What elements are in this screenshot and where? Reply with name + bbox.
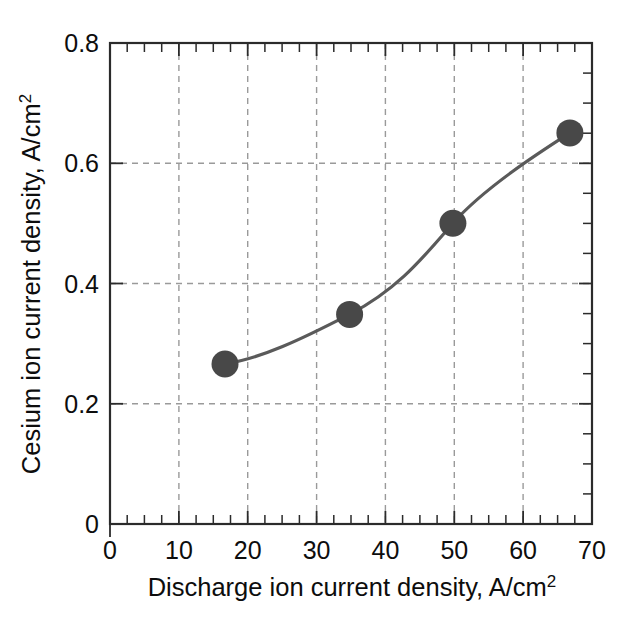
gridlines-vertical [179,43,523,524]
data-point-markers [212,119,584,377]
y-tick-label-0.6: 0.6 [64,149,99,177]
y-tick-label-0: 0 [85,510,99,538]
y-tick-label-0.2: 0.2 [64,390,99,418]
y-axis-major-ticks-inner [110,163,123,403]
chart-plot-area: 0 0.2 0.4 0.6 0.8 0 10 20 30 40 50 60 70… [0,0,636,631]
y-axis-title-superscript: 2 [16,94,35,103]
data-series-line [225,133,570,364]
gridlines-horizontal [110,163,592,403]
y-axis-title: Cesium ion current density, A/cm2 [16,94,45,474]
data-point [212,351,239,378]
x-axis-top-minor-ticks [127,43,575,52]
x-tick-label-40: 40 [371,536,399,564]
y-tick-label-0.4: 0.4 [64,270,99,298]
x-tick-label-10: 10 [165,536,193,564]
x-axis-minor-ticks [127,515,575,524]
data-point [556,119,583,146]
x-tick-label-0: 0 [103,536,117,564]
x-tick-label-50: 50 [440,536,468,564]
x-tick-label-30: 30 [303,536,331,564]
x-tick-label-70: 70 [578,536,606,564]
x-axis-title-superscript: 2 [547,572,556,591]
x-tick-label-20: 20 [234,536,262,564]
x-axis-title-text: Discharge ion current density, A/cm [148,573,547,601]
x-tick-label-60: 60 [509,536,537,564]
chart-figure: 0 0.2 0.4 0.6 0.8 0 10 20 30 40 50 60 70… [0,0,636,631]
data-point [336,301,363,328]
y-axis-right-major-ticks [579,163,592,403]
y-tick-label-0.8: 0.8 [64,29,99,57]
x-axis-title: Discharge ion current density, A/cm2 [148,572,557,601]
data-point [439,210,466,237]
y-axis-title-text: Cesium ion current density, A/cm [17,103,45,474]
